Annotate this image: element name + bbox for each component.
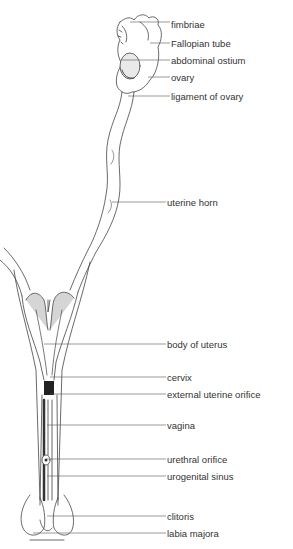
label-abdominal-ostium: abdominal ostium (171, 55, 245, 66)
label-clitoris: clitoris (167, 511, 194, 522)
label-fimbriae: fimbriae (171, 19, 205, 30)
label-body-of-uterus: body of uterus (167, 339, 227, 350)
label-fallopian-tube: Fallopian tube (171, 38, 231, 49)
ovary-fimbriae-drawing (116, 15, 161, 94)
vagina-drawing (40, 381, 58, 505)
label-cervix: cervix (167, 372, 192, 383)
uterine-horn-drawing (70, 92, 134, 292)
label-uterine-horn: uterine horn (167, 197, 218, 208)
label-labia-majora: labia majora (167, 528, 219, 539)
label-urogenital-sinus: urogenital sinus (167, 471, 234, 482)
label-vagina: vagina (167, 420, 195, 431)
label-urethral-orifice: urethral orifice (167, 454, 227, 465)
label-ligament-of-ovary: ligament of ovary (171, 91, 243, 102)
anatomical-illustration (0, 0, 293, 549)
left-horn-drawing (0, 248, 30, 296)
label-external-uterine-orifice: external uterine orifice (167, 389, 260, 400)
label-ovary: ovary (171, 72, 194, 83)
